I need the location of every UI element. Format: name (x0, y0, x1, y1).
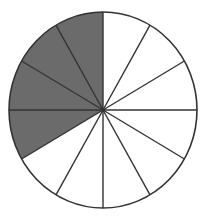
fraction-circle (0, 0, 206, 218)
center-point (101, 108, 105, 112)
